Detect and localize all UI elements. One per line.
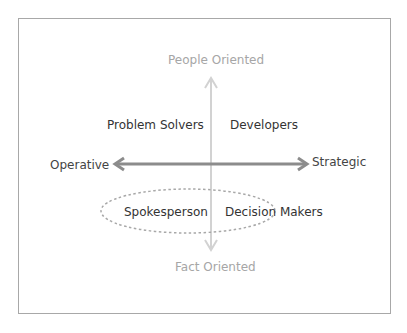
quadrant-developers: Developers [230,118,298,132]
people-oriented-label: People Oriented [168,53,264,67]
strategic-label: Strategic [312,155,366,169]
fact-oriented-label: Fact Oriented [175,260,256,274]
quadrant-spokesperson: Spokesperson [124,205,208,219]
quadrant-decision-makers: Decision Makers [225,205,323,219]
operative-label: Operative [50,158,109,172]
quadrant-problem-solvers: Problem Solvers [107,118,204,132]
